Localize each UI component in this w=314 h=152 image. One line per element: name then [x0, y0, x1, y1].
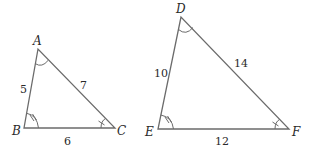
vertex-a-label: A — [32, 34, 42, 48]
similar-triangles-diagram: A B C 5 7 6 D E F 10 14 12 — [0, 0, 314, 152]
side-ac-label: 7 — [80, 79, 87, 92]
vertex-e-label: E — [144, 125, 154, 139]
angle-b-arc — [27, 113, 39, 128]
side-ef-label: 12 — [215, 135, 229, 148]
side-bc-label: 6 — [64, 135, 71, 148]
vertex-f-label: F — [291, 125, 301, 139]
triangle-def: D E F 10 14 12 — [144, 2, 301, 148]
side-ab-label: 5 — [20, 83, 27, 96]
triangle-abc: A B C 5 7 6 — [11, 34, 126, 148]
vertex-b-label: B — [11, 124, 21, 138]
triangle-def-outline — [158, 17, 289, 129]
angle-e-arc — [161, 115, 174, 129]
vertex-c-label: C — [117, 124, 126, 138]
side-de-label: 10 — [154, 67, 168, 80]
side-df-label: 14 — [234, 57, 248, 70]
angle-a-arc — [35, 61, 48, 66]
triangle-abc-outline — [24, 49, 115, 128]
vertex-d-label: D — [175, 2, 186, 16]
angle-d-arc — [179, 28, 194, 33]
